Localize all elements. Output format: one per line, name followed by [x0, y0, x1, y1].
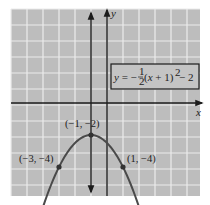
parabola-chart: x y (−1, −2)(−3, −4)(1, −4) y = − 1 2 (x… — [0, 0, 210, 205]
equation-label: y = − 1 2 (x + 1) 2 − 2 — [111, 64, 199, 89]
x-axis-label: x — [195, 106, 201, 118]
point-label: (−3, −4) — [19, 153, 54, 165]
point-marker — [56, 164, 61, 169]
eq-prefix: = − — [119, 71, 137, 83]
point-marker — [120, 164, 125, 169]
svg-text:(x + 1): (x + 1) — [144, 71, 174, 84]
point-label: (−1, −2) — [65, 118, 100, 130]
y-axis-label: y — [110, 7, 116, 19]
eq-suffix: − 2 — [179, 71, 193, 83]
point-label: (1, −4) — [127, 153, 156, 165]
point-marker — [88, 132, 93, 137]
svg-text:y = −: y = − — [113, 71, 137, 83]
